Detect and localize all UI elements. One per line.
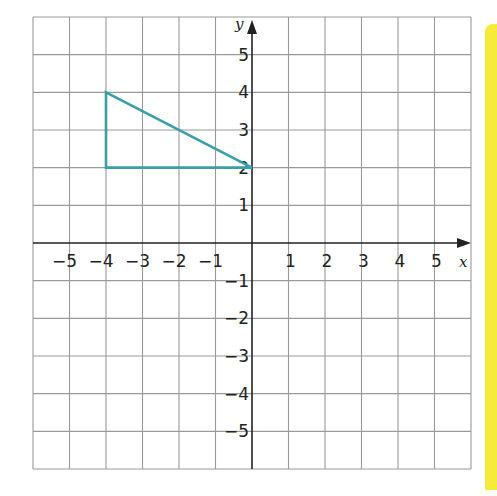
y-tick-label: −1: [224, 271, 249, 291]
x-tick-label: 3: [358, 251, 369, 271]
axes: xy: [33, 15, 471, 469]
y-tick-label: −2: [224, 308, 249, 328]
x-tick-label: 5: [431, 251, 442, 271]
yellow-margin-strip: [485, 24, 497, 490]
y-tick-label: 1: [238, 195, 249, 215]
x-tick-label: 4: [395, 251, 406, 271]
y-tick-label: −3: [224, 346, 249, 366]
y-tick-label: 5: [238, 45, 249, 65]
y-axis-arrow-icon: [247, 20, 257, 34]
x-tick-label: 1: [285, 251, 296, 271]
y-tick-label: 4: [238, 82, 249, 102]
y-tick-label: 3: [238, 120, 249, 140]
x-tick-label: 2: [322, 251, 333, 271]
x-axis-label: x: [459, 253, 468, 271]
x-tick-label: −4: [88, 251, 113, 271]
x-tick-label: −2: [161, 251, 186, 271]
x-tick-label: −5: [52, 251, 77, 271]
x-axis-arrow-icon: [457, 238, 471, 248]
y-tick-label: −5: [224, 421, 249, 441]
x-tick-label: −3: [125, 251, 150, 271]
x-tick-label: −1: [198, 251, 223, 271]
y-tick-label: −4: [224, 384, 249, 404]
y-axis-label: y: [234, 15, 244, 33]
